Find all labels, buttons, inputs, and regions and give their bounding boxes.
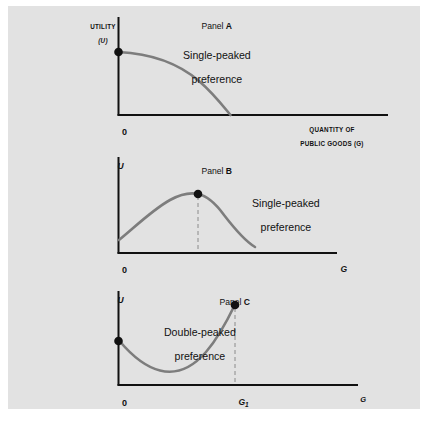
panel-c-y-axis-label: U xyxy=(108,286,124,315)
panel-a-y-axis-label-line1: UTILITY xyxy=(90,23,116,30)
panel-a-y-axis-label: UTILITY (U) xyxy=(82,16,116,51)
panel-a-origin-text: 0 xyxy=(122,127,127,137)
panel-c-title: Panel C xyxy=(195,288,265,317)
panel-c-origin-dot xyxy=(114,337,123,346)
panel-c-x-axis-text: G xyxy=(360,395,366,404)
panel-b-annotation: Single-peaked preference xyxy=(219,186,341,245)
panel-b-x-axis-label: G xyxy=(331,255,347,284)
panel-b-origin-label: 0 xyxy=(112,255,127,285)
panel-c-title-prefix: Panel xyxy=(219,297,243,307)
panel-a-x-axis-label-line1: QUANTITY OF xyxy=(309,126,354,133)
panel-a-annotation: Single-peaked preference xyxy=(150,38,272,97)
panel-c-y-axis-text: U xyxy=(117,295,123,305)
panel-a-title-prefix: Panel xyxy=(201,21,225,31)
panel-c-x-axis-label: G xyxy=(352,388,366,413)
panel-b-x-axis-text: G xyxy=(340,264,347,274)
panel-b-annotation-line2: preference xyxy=(261,221,312,233)
panel-b-title-letter: B xyxy=(226,166,232,176)
panel-b-y-axis-label: U xyxy=(108,152,124,181)
panel-b-peak-dot xyxy=(194,190,203,199)
panel-c-annotation-line1: Double-peaked xyxy=(164,326,236,338)
figure-container: UTILITY (U) Panel A Single-peaked prefer… xyxy=(0,0,446,427)
panel-a-x-axis-label: QUANTITY OF PUBLIC GOODS (G) xyxy=(281,119,375,154)
panel-a-annotation-line1: Single-peaked xyxy=(183,49,251,61)
panel-c-origin-label: 0 xyxy=(112,388,127,418)
panel-b-y-axis-text: U xyxy=(117,161,123,171)
panel-a-title: Panel A xyxy=(177,12,247,41)
panel-c-origin-text: 0 xyxy=(122,398,127,408)
panel-c-title-letter: C xyxy=(244,297,250,307)
panel-b-title-prefix: Panel xyxy=(201,166,225,176)
panel-a-annotation-line2: preference xyxy=(192,73,243,85)
panel-c-annotation: Double-peaked preference xyxy=(131,315,257,374)
panel-a-title-letter: A xyxy=(226,21,232,31)
panel-c-peak-tick-subscript: 1 xyxy=(245,401,249,408)
panel-a-y-axis-label-line2: (U) xyxy=(98,37,108,44)
panel-b-annotation-line1: Single-peaked xyxy=(252,197,320,209)
panel-c-peak-tick-label: G1 xyxy=(229,388,249,417)
panel-a-origin-label: 0 xyxy=(112,117,127,147)
panel-b-title: Panel B xyxy=(177,157,247,186)
panel-c-annotation-line2: preference xyxy=(175,350,226,362)
panel-a-x-axis-label-line2: PUBLIC GOODS (G) xyxy=(300,140,363,147)
panel-b-origin-text: 0 xyxy=(122,265,127,275)
